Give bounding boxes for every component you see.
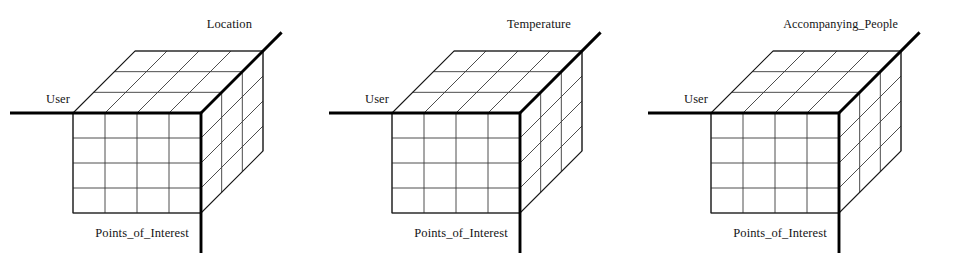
- cube-geometry-1: [329, 32, 601, 253]
- cube-panel-accompanying-people: User Accompanying_People Points_of_Inter…: [638, 0, 956, 263]
- cube-panel-temperature: User Temperature Points_of_Interest: [319, 0, 637, 263]
- cube-geometry-0: [10, 32, 282, 253]
- cube-geometry-2: [648, 32, 920, 253]
- axis-label-z: Location: [207, 17, 253, 31]
- axis-label-points-of-interest: Points_of_Interest: [95, 226, 189, 240]
- axis-label-points-of-interest: Points_of_Interest: [733, 226, 827, 240]
- cube-graphic: User Location Points_of_Interest: [0, 0, 318, 263]
- cube-diagram-figure: User Location Points_of_Interest User Te…: [0, 0, 956, 263]
- axis-label-user: User: [46, 92, 71, 106]
- axis-label-user: User: [365, 92, 390, 106]
- axis-label-z: Accompanying_People: [783, 17, 898, 31]
- axis-label-z: Temperature: [507, 17, 571, 31]
- axis-label-user: User: [684, 92, 709, 106]
- cube-panel-location: User Location Points_of_Interest: [0, 0, 318, 263]
- axis-label-points-of-interest: Points_of_Interest: [414, 226, 508, 240]
- cube-graphic: User Accompanying_People Points_of_Inter…: [638, 0, 956, 263]
- cube-graphic: User Temperature Points_of_Interest: [319, 0, 637, 263]
